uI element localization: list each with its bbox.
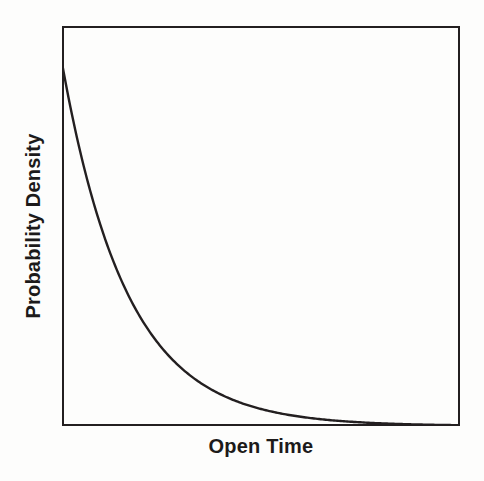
x-axis-label: Open Time: [62, 435, 460, 458]
y-axis-label: Probability Density: [20, 26, 46, 426]
exponential-decay-curve: [62, 63, 460, 425]
figure-container: Probability Density Open Time: [0, 0, 484, 481]
plot-canvas: [62, 26, 460, 426]
